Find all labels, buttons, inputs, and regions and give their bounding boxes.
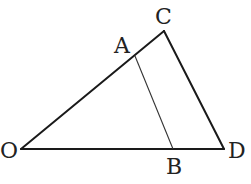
label-point-c: C [155,4,172,29]
geometry-diagram: O A C B D [0,0,251,184]
segment-CD [164,31,224,149]
label-point-d: D [228,138,246,163]
label-point-o: O [0,138,18,163]
label-point-a: A [113,33,131,58]
label-point-b: B [166,154,182,179]
segment-OC [21,31,164,149]
segment-AB [135,56,173,149]
